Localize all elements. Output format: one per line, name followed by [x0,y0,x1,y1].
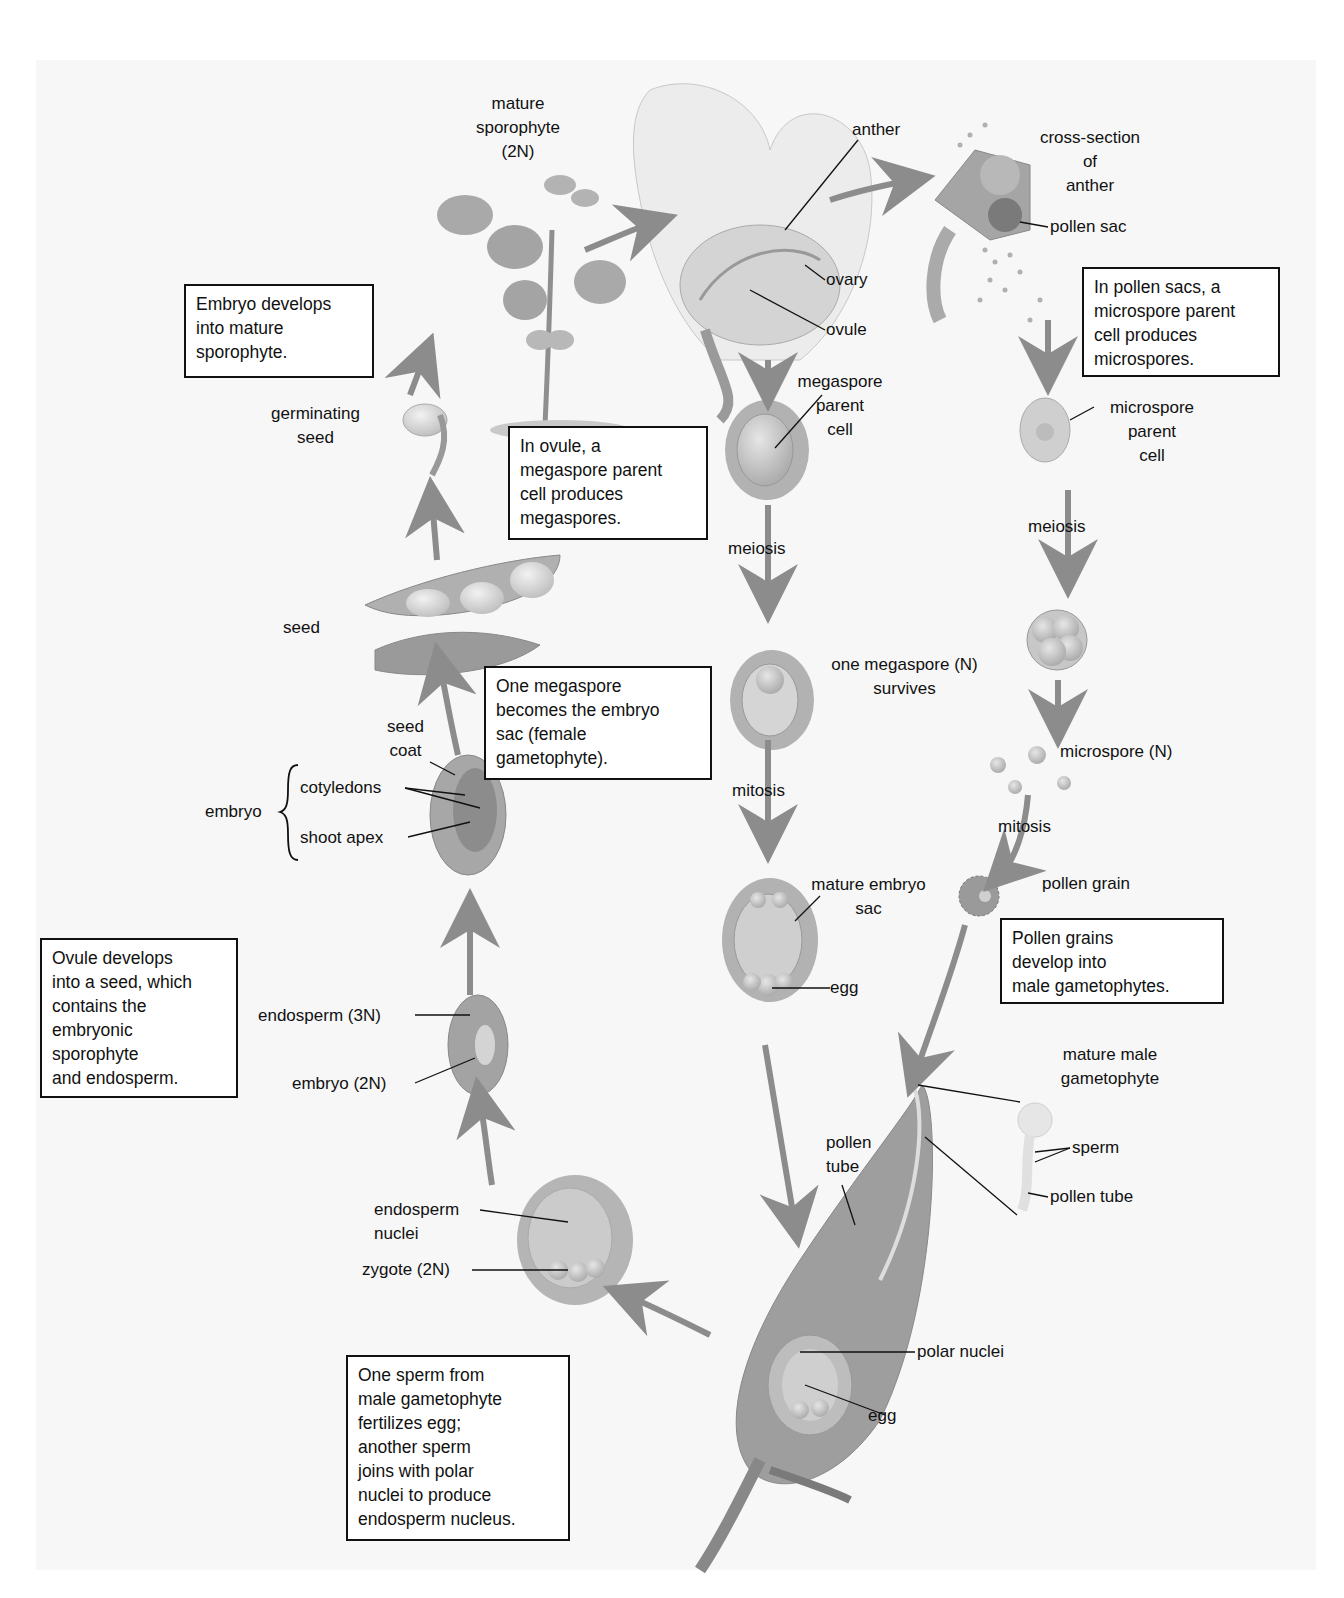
label-egg-ovary: egg [868,1404,896,1428]
caption-line: into a seed, which [52,970,226,994]
caption-line: sporophyte. [196,340,362,364]
label-mature-male-gametophyte: mature male gametophyte [1040,1043,1180,1091]
label-meiosis-left: meiosis [728,537,786,561]
caption-line: endosperm nucleus. [358,1507,558,1531]
label-line: endosperm [374,1198,459,1222]
label-embryo-2n: embryo (2N) [292,1072,386,1096]
microspore-parent-cell-illustration [1020,398,1070,462]
caption-pollen-grains-develop: Pollen grains develop into male gametoph… [1000,918,1224,1004]
label-line: pollen [826,1131,871,1155]
caption-line: male gametophyte [358,1387,558,1411]
caption-in-ovule: In ovule, a megaspore parent cell produc… [508,426,708,540]
label-microspore: microspore (N) [1060,740,1172,764]
sporophyte-illustration [437,175,630,440]
label-meiosis-right: meiosis [1028,515,1086,539]
caption-line: Embryo develops [196,292,362,316]
caption-one-sperm: One sperm from male gametophyte fertiliz… [346,1355,570,1541]
label-pollen-sac: pollen sac [1050,215,1127,239]
caption-line: sporophyte [52,1042,226,1066]
label-line: cross-section [1030,126,1150,150]
life-cycle-artwork [0,0,1344,1598]
germinating-seed-illustration [403,404,447,475]
caption-line: cell produces [520,482,696,506]
caption-line: microspores. [1094,347,1268,371]
ovary-pollen-tube-illustration [700,1085,932,1570]
caption-line: One sperm from [358,1363,558,1387]
label-cross-section: cross-section of anther [1030,126,1150,198]
label-egg-embryo-sac: egg [830,976,858,1000]
label-line: (2N) [468,140,568,164]
label-line: anther [1030,174,1150,198]
label-mature-sporophyte: mature sporophyte (2N) [468,92,568,164]
label-line: of [1030,150,1150,174]
label-mature-embryo-sac: mature embryo sac [796,873,941,921]
label-line: sporophyte [468,116,568,140]
surviving-megaspore-illustration [730,650,814,750]
caption-line: microspore parent [1094,299,1268,323]
caption-one-megaspore-becomes: One megaspore becomes the embryo sac (fe… [484,666,712,780]
label-endosperm-nuclei: endosperm nuclei [374,1198,459,1246]
label-polar-nuclei: polar nuclei [917,1340,1004,1364]
label-seed-coat: seed coat [378,715,433,763]
embryo-brace [280,765,298,860]
label-line: survives [812,677,997,701]
caption-line: sac (female [496,722,700,746]
caption-line: In ovule, a [520,434,696,458]
caption-line: cell produces [1094,323,1268,347]
caption-line: and endosperm. [52,1066,226,1090]
label-pollen-tube-gametophyte: pollen tube [1050,1185,1133,1209]
caption-embryo-develops: Embryo develops into mature sporophyte. [184,284,374,378]
caption-line: gametophyte). [496,746,700,770]
label-mitosis-left: mitosis [732,779,785,803]
label-line: megaspore [790,370,890,394]
caption-line: Ovule develops [52,946,226,970]
caption-line: fertilizes egg; [358,1411,558,1435]
caption-line: Pollen grains [1012,926,1212,950]
label-microspore-parent-cell: microspore parent cell [1092,396,1212,468]
label-line: mature male [1040,1043,1180,1067]
caption-line: One megaspore [496,674,700,698]
label-line: one megaspore (N) [812,653,997,677]
label-sperm: sperm [1072,1136,1119,1160]
caption-line: embryonic [52,1018,226,1042]
caption-in-pollen-sacs: In pollen sacs, a microspore parent cell… [1082,267,1280,377]
label-line: coat [378,739,433,763]
pollen-grain-illustration [959,876,999,916]
label-pollen-tube-ovary: pollen tube [826,1131,871,1179]
label-line: cell [790,418,890,442]
label-shoot-apex: shoot apex [300,826,383,850]
label-line: germinating [258,402,373,426]
caption-line: contains the [52,994,226,1018]
caption-line: In pollen sacs, a [1094,275,1268,299]
label-line: parent [1092,420,1212,444]
label-endosperm-3n: endosperm (3N) [258,1004,381,1028]
developing-seed-illustration [448,995,508,1095]
caption-line: develop into [1012,950,1212,974]
label-mitosis-right: mitosis [998,815,1051,839]
label-megaspore-parent-cell: megaspore parent cell [790,370,890,442]
label-germinating-seed: germinating seed [258,402,373,450]
label-line: seed [378,715,433,739]
caption-line: megaspore parent [520,458,696,482]
caption-line: megaspores. [520,506,696,530]
microspores-illustration [990,746,1071,794]
caption-line: nuclei to produce [358,1483,558,1507]
caption-ovule-develops: Ovule develops into a seed, which contai… [40,938,238,1098]
label-line: microspore [1092,396,1212,420]
label-cotyledons: cotyledons [300,776,381,800]
caption-line: another sperm [358,1435,558,1459]
label-line: cell [1092,444,1212,468]
label-ovary: ovary [826,268,868,292]
caption-line: becomes the embryo [496,698,700,722]
caption-line: male gametophytes. [1012,974,1212,998]
label-embryo: embryo [205,800,262,824]
label-zygote: zygote (2N) [362,1258,450,1282]
label-seed: seed [283,616,320,640]
label-line: mature [468,92,568,116]
label-line: seed [258,426,373,450]
seed-pod-illustration [365,555,560,675]
caption-line: joins with polar [358,1459,558,1483]
caption-line: into mature [196,316,362,340]
label-one-megaspore-survives: one megaspore (N) survives [812,653,997,701]
label-ovule: ovule [826,318,867,342]
